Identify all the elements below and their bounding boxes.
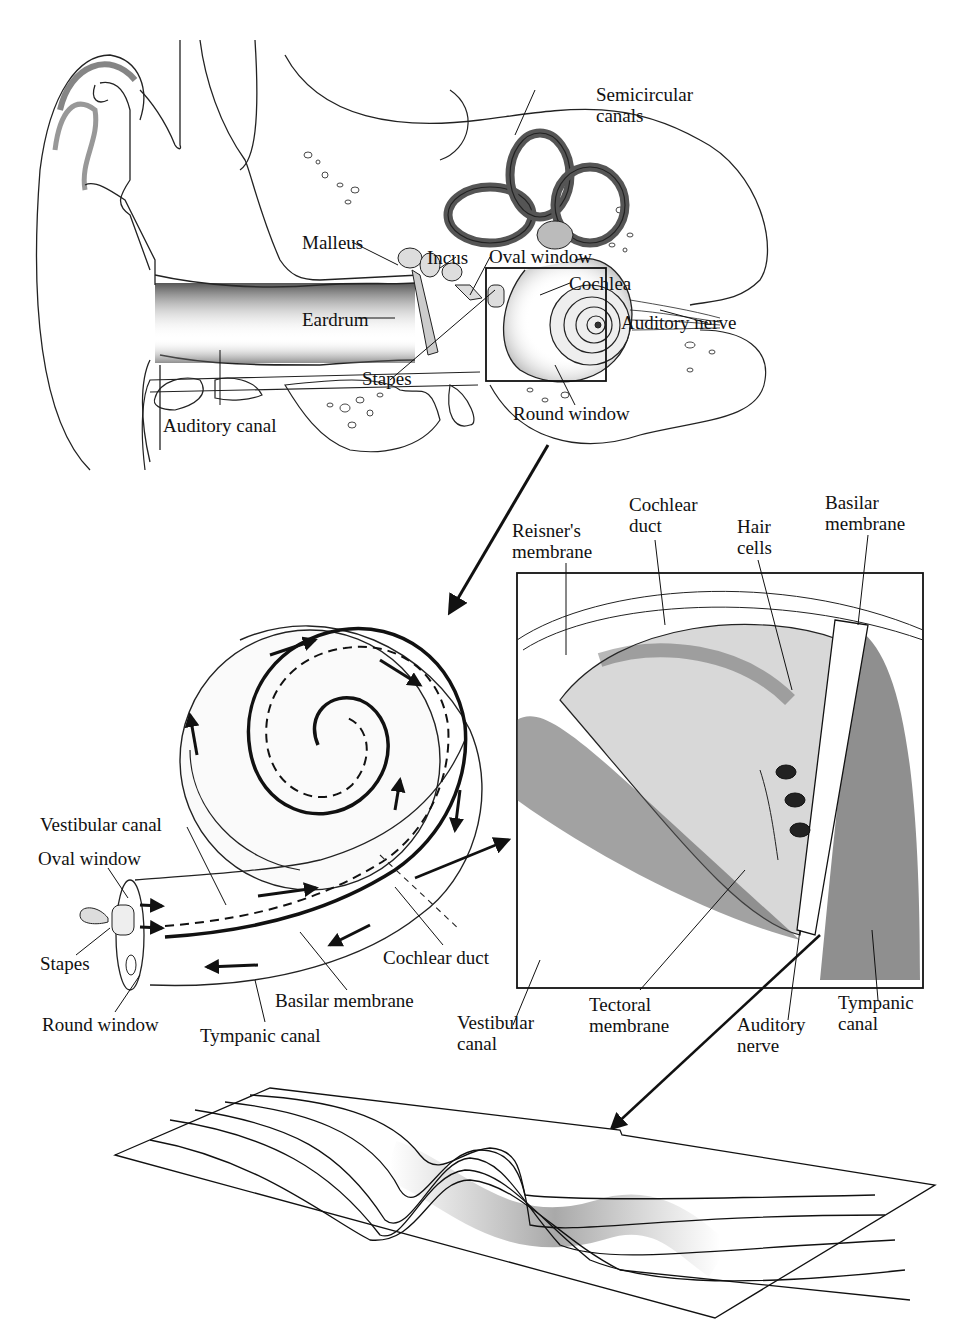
label-semicircular-canals: Semicircular canals <box>596 84 693 126</box>
label-auditory-canal: Auditory canal <box>163 415 276 436</box>
cochlea-cross-section-drawing <box>517 573 923 988</box>
label-line: Basilar <box>825 492 905 513</box>
label-line: cells <box>737 537 772 558</box>
label-line: Vestibular <box>457 1012 534 1033</box>
ear-anatomy-illustration <box>0 0 961 1340</box>
semicircular-canals-drawing <box>448 133 625 249</box>
label-line: canal <box>457 1033 534 1054</box>
label-hair-cells: Hair cells <box>737 516 772 558</box>
label-line: membrane <box>512 541 592 562</box>
label-line: Cochlear <box>629 494 698 515</box>
label-incus: Incus <box>427 247 468 268</box>
label-line: nerve <box>737 1035 806 1056</box>
label-line: membrane <box>589 1015 669 1036</box>
label-tympanic-canal-2: Tympanic canal <box>838 992 914 1034</box>
label-basilar-membrane: Basilar membrane <box>275 990 414 1011</box>
label-oval-window-2: Oval window <box>38 848 141 869</box>
label-line: Hair <box>737 516 772 537</box>
label-cochlear-duct: Cochlear duct <box>383 947 489 968</box>
label-line: canals <box>596 105 693 126</box>
label-oval-window: Oval window <box>489 246 592 267</box>
label-vestibular-canal-2: Vestibular canal <box>457 1012 534 1054</box>
label-line: Semicircular <box>596 84 693 105</box>
uncoiled-cochlea-drawing <box>80 626 482 990</box>
label-malleus: Malleus <box>302 232 363 253</box>
label-eardrum: Eardrum <box>302 309 368 330</box>
label-stapes: Stapes <box>362 368 412 389</box>
label-basilar-membrane-2: Basilar membrane <box>825 492 905 534</box>
label-auditory-nerve: Auditory nerve <box>621 312 737 333</box>
auditory-canal-shading <box>155 283 415 363</box>
label-line: Auditory <box>737 1014 806 1035</box>
arrow-to-cross-section <box>415 840 508 878</box>
label-line: Tectoral <box>589 994 669 1015</box>
label-cochlea: Cochlea <box>569 273 631 294</box>
label-stapes-2: Stapes <box>40 953 90 974</box>
label-auditory-nerve-2: Auditory nerve <box>737 1014 806 1056</box>
label-round-window-2: Round window <box>42 1014 159 1035</box>
label-tympanic-canal: Tympanic canal <box>200 1025 321 1046</box>
label-reisners-membrane: Reisner's membrane <box>512 520 592 562</box>
label-round-window: Round window <box>513 403 630 424</box>
label-tectoral-membrane: Tectoral membrane <box>589 994 669 1036</box>
label-vestibular-canal: Vestibular canal <box>40 814 162 835</box>
label-cochlear-duct-2: Cochlear duct <box>629 494 698 536</box>
label-line: Reisner's <box>512 520 592 541</box>
label-line: duct <box>629 515 698 536</box>
label-line: Tympanic <box>838 992 914 1013</box>
label-line: canal <box>838 1013 914 1034</box>
label-line: membrane <box>825 513 905 534</box>
basilar-membrane-wave-drawing <box>115 1088 935 1318</box>
